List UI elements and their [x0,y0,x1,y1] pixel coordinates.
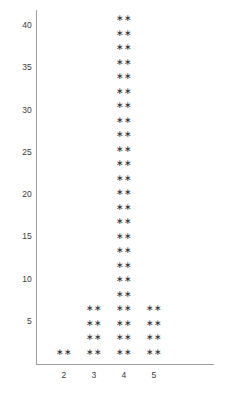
dot-frequency-chart: 510152025303540 2∗∗3∗∗∗∗∗∗∗∗4∗∗∗∗∗∗∗∗∗∗∗… [0,0,245,406]
data-marker: ∗∗ [115,159,133,168]
data-marker: ∗∗ [115,289,133,298]
data-marker: ∗∗ [115,173,133,182]
data-marker: ∗∗ [115,101,133,110]
data-marker: ∗∗ [115,275,133,284]
data-marker: ∗∗ [85,333,103,342]
data-marker: ∗∗ [115,72,133,81]
data-marker: ∗∗ [115,333,133,342]
plot-area: 2∗∗3∗∗∗∗∗∗∗∗4∗∗∗∗∗∗∗∗∗∗∗∗∗∗∗∗∗∗∗∗∗∗∗∗∗∗∗… [0,0,245,406]
data-marker: ∗∗ [115,86,133,95]
data-marker: ∗∗ [115,115,133,124]
data-marker: ∗∗ [115,318,133,327]
data-marker: ∗∗ [115,202,133,211]
x-axis-tick-label: 4 [114,370,134,380]
data-marker: ∗∗ [115,217,133,226]
data-marker: ∗∗ [145,304,163,313]
data-marker: ∗∗ [115,246,133,255]
data-marker: ∗∗ [115,43,133,52]
data-marker: ∗∗ [85,318,103,327]
data-marker: ∗∗ [85,348,103,357]
data-marker: ∗∗ [115,348,133,357]
data-marker: ∗∗ [145,348,163,357]
data-marker: ∗∗ [115,144,133,153]
x-axis-tick-label: 2 [54,370,74,380]
data-marker: ∗∗ [115,130,133,139]
data-marker: ∗∗ [115,28,133,37]
x-axis-tick-label: 5 [144,370,164,380]
data-marker: ∗∗ [115,188,133,197]
data-marker: ∗∗ [55,348,73,357]
data-marker: ∗∗ [115,231,133,240]
data-marker: ∗∗ [115,304,133,313]
data-marker: ∗∗ [115,260,133,269]
data-marker: ∗∗ [85,304,103,313]
x-axis-tick-label: 3 [84,370,104,380]
data-marker: ∗∗ [145,318,163,327]
data-marker: ∗∗ [115,57,133,66]
data-marker: ∗∗ [115,14,133,23]
data-marker: ∗∗ [145,333,163,342]
